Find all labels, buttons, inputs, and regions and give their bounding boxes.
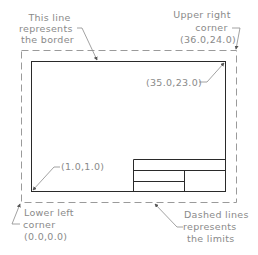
border-label: This line represents the border xyxy=(19,12,76,45)
border-upper-right-label: (35.0,23.0) xyxy=(146,77,202,88)
border-upper-right-leader xyxy=(199,63,224,82)
drawing-limits-diagram: This line represents the border Upper ri… xyxy=(0,0,258,255)
title-block xyxy=(134,160,226,192)
limits-label: Dashed lines represents the limits xyxy=(183,209,252,244)
limits-leader xyxy=(155,204,183,227)
limits-rectangle xyxy=(22,51,237,203)
leader-lines xyxy=(12,28,240,227)
lower-left-leader xyxy=(12,204,20,224)
upper-right-label: Upper right corner (36.0,24.0) xyxy=(173,9,236,45)
lower-left-label: Lower left corner (0.0,0.0) xyxy=(23,207,77,242)
border-lower-left-leader xyxy=(33,167,60,190)
border-lower-left-label: (1.0,1.0) xyxy=(61,161,104,172)
border-leader xyxy=(77,28,97,60)
